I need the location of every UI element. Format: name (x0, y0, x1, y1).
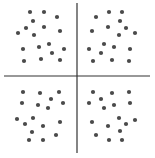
data-point-dot (106, 124, 110, 128)
data-point-dot (124, 26, 128, 30)
data-point-dot (42, 25, 46, 29)
data-point-dot (16, 31, 20, 35)
data-point-dot (120, 10, 124, 14)
data-point-dot (118, 129, 122, 133)
data-point-dot (110, 58, 114, 62)
data-point-dot (47, 42, 51, 46)
data-point-dot (90, 120, 94, 124)
data-point-dot (102, 42, 106, 46)
data-point-dot (46, 106, 50, 110)
data-point-dot (94, 15, 98, 19)
data-point-dot (57, 90, 61, 94)
data-point-dot (90, 29, 94, 33)
data-point-dot (22, 59, 26, 63)
quadrant-scatter-diagram (0, 0, 155, 158)
data-point-dot (112, 103, 116, 107)
data-point-dot (107, 138, 111, 142)
data-point-dot (24, 26, 28, 30)
data-point-dot (94, 133, 98, 137)
data-point-dot (99, 97, 103, 101)
data-point-dot (128, 101, 132, 105)
data-point-dot (127, 59, 131, 63)
data-point-dot (91, 59, 95, 63)
data-point-dot (21, 90, 25, 94)
data-point-dot (91, 90, 95, 94)
data-point-dot (87, 47, 91, 51)
data-point-dot (112, 45, 116, 49)
data-point-dot (117, 33, 121, 37)
data-point-dot (31, 19, 35, 23)
data-point-dot (61, 101, 65, 105)
data-point-dot (41, 138, 45, 142)
data-point-dot (15, 117, 19, 121)
data-point-dot (120, 138, 124, 142)
data-point-dot (128, 47, 132, 51)
data-point-dot (20, 101, 24, 105)
data-point-dot (49, 97, 53, 101)
data-point-dot (50, 51, 54, 55)
data-point-dot (58, 58, 62, 62)
data-point-dot (110, 91, 114, 95)
data-point-dot (58, 29, 62, 33)
data-point-dot (36, 103, 40, 107)
data-point-dot (54, 133, 58, 137)
data-point-dot (118, 19, 122, 23)
data-point-dot (32, 33, 36, 37)
data-point-dot (42, 10, 46, 14)
data-point-dot (117, 116, 121, 120)
data-point-dot (62, 47, 66, 51)
data-point-dot (23, 122, 27, 126)
data-point-dot (133, 31, 137, 35)
data-point-dot (28, 10, 32, 14)
data-point-dot (99, 51, 103, 55)
data-point-dot (107, 10, 111, 14)
data-point-dot (37, 45, 41, 49)
data-point-dot (127, 90, 131, 94)
data-point-dot (58, 120, 62, 124)
data-point-dot (38, 91, 42, 95)
data-point-dot (39, 57, 43, 61)
data-point-dot (41, 124, 45, 128)
data-point-dot (31, 116, 35, 120)
data-point-dot (87, 101, 91, 105)
data-point-dot (55, 15, 59, 19)
data-point-dot (102, 106, 106, 110)
data-point-dot (30, 130, 34, 134)
data-point-dot (124, 122, 128, 126)
data-point-dot (133, 118, 137, 122)
data-point-dot (21, 47, 25, 51)
data-point-dot (27, 138, 31, 142)
data-point-dot (106, 25, 110, 29)
